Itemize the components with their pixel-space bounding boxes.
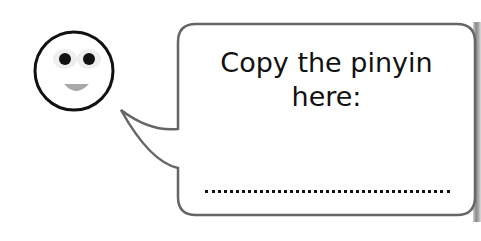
- prompt-line-2: here:: [180, 80, 473, 114]
- speech-bubble-text: Copy the pinyin here:: [180, 46, 473, 114]
- illustration: [0, 0, 481, 241]
- answer-dotted-line[interactable]: [205, 184, 450, 193]
- smiley-face-icon: [35, 32, 113, 110]
- prompt-line-1: Copy the pinyin: [180, 46, 473, 80]
